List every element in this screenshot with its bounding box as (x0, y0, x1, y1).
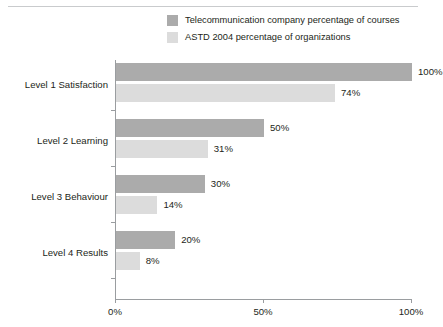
y-axis-tick (111, 166, 116, 167)
category-label: Level 4 Results (0, 247, 108, 259)
bar-group: Level 1 Satisfaction100%74% (0, 60, 426, 116)
bar-value-label: 100% (418, 66, 443, 78)
bar-series-1: 31% (116, 140, 208, 158)
legend-swatch-icon (167, 32, 178, 43)
bar-group: Level 2 Learning50%31% (0, 116, 426, 172)
y-axis-tick (111, 222, 116, 223)
x-axis-tick-label: 0% (108, 306, 122, 318)
bar-series-0: 30% (116, 175, 205, 193)
bar-value-label: 30% (211, 178, 230, 190)
x-axis-tick (263, 299, 264, 303)
y-axis-tick (111, 278, 116, 279)
legend-item: ASTD 2004 percentage of organizations (167, 30, 399, 44)
legend-swatch-icon (167, 15, 178, 26)
legend-item: Telecommunication company percentage of … (167, 13, 399, 27)
bar-value-label: 50% (270, 122, 289, 134)
bar-series-0: 20% (116, 231, 175, 249)
category-label: Level 3 Behaviour (0, 191, 108, 203)
x-axis-tick-label: 50% (253, 306, 272, 318)
bar-value-label: 14% (163, 199, 182, 211)
chart-plot-area: Level 1 Satisfaction100%74%Level 2 Learn… (0, 56, 426, 306)
bar-series-0: 50% (116, 119, 264, 137)
chart-legend: Telecommunication company percentage of … (167, 13, 399, 47)
cut-off-caption (8, 322, 338, 327)
bar-series-1: 74% (116, 84, 335, 102)
category-label: Level 2 Learning (0, 135, 108, 147)
x-axis-tick (115, 299, 116, 303)
top-divider-rule (8, 6, 418, 7)
bar-value-label: 74% (341, 87, 360, 99)
bar-value-label: 31% (214, 143, 233, 155)
x-axis-tick (411, 299, 412, 303)
bar-series-1: 8% (116, 252, 140, 270)
bar-value-label: 8% (146, 255, 160, 267)
legend-item-label: Telecommunication company percentage of … (185, 15, 399, 26)
bar-series-1: 14% (116, 196, 157, 214)
legend-item-label: ASTD 2004 percentage of organizations (185, 32, 350, 43)
category-label: Level 1 Satisfaction (0, 79, 108, 91)
bar-group: Level 4 Results20%8% (0, 228, 426, 284)
y-axis-tick (111, 110, 116, 111)
x-axis-tick-label: 100% (399, 306, 424, 318)
bar-group: Level 3 Behaviour30%14% (0, 172, 426, 228)
bar-series-0: 100% (116, 63, 412, 81)
bar-value-label: 20% (181, 234, 200, 246)
